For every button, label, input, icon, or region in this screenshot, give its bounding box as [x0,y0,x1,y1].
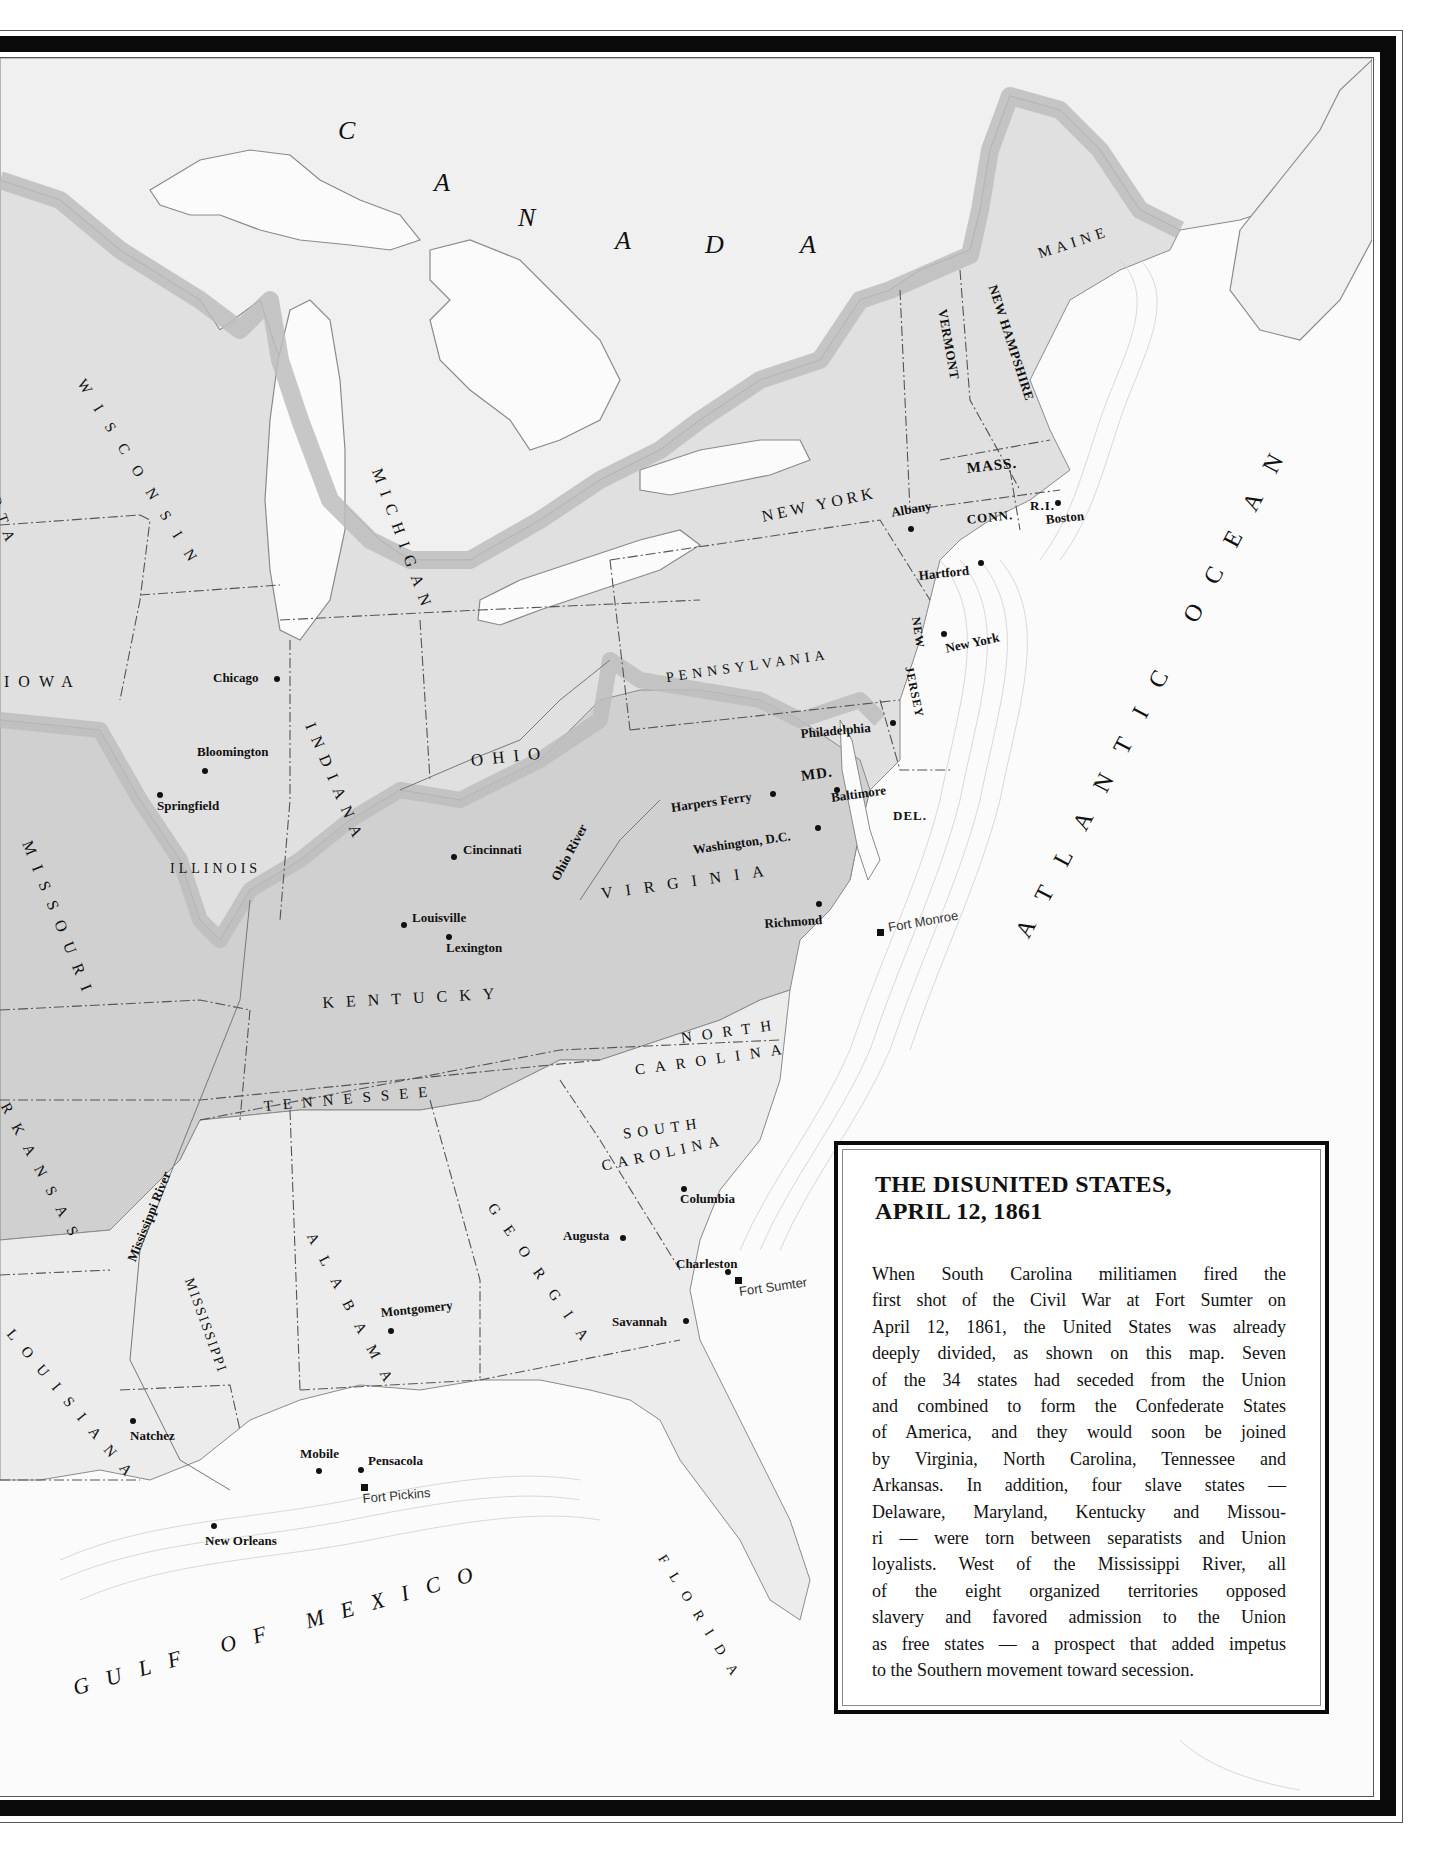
label-canada-a1: A [434,168,450,198]
city-dot-albany [908,526,914,532]
label-iowa: IOWA [4,673,82,691]
city-dot-new-orleans [211,1523,217,1529]
label-canada-c: C [338,116,355,146]
info-body-line: to the Southern movement toward secessio… [872,1657,1286,1683]
label-new-orleans: New Orleans [205,1533,277,1549]
info-body-line: of America, and they would soon be joine… [872,1419,1286,1445]
info-title-line-2: APRIL 12, 1861 [875,1198,1172,1225]
info-body-line: of the 34 states had seceded from the Un… [872,1367,1286,1393]
city-dot-richmond [816,901,822,907]
city-dot-mobile [316,1468,322,1474]
info-body-line: first shot of the Civil War at Fort Sumt… [872,1287,1286,1313]
label-savannah: Savannah [612,1314,667,1330]
label-del: DEL. [893,808,927,824]
label-natchez: Natchez [130,1428,175,1444]
info-body-line: ri — were torn between separatists and U… [872,1525,1286,1551]
label-canada-n: N [518,203,535,233]
label-bloomington: Bloomington [197,744,269,760]
city-dot-natchez [130,1418,136,1424]
info-body-line: loyalists. West of the Mississippi River… [872,1551,1286,1577]
label-charleston: Charleston [676,1256,737,1272]
info-body-line: of the eight organized territories oppos… [872,1578,1286,1604]
label-canada-a3: A [800,230,816,260]
info-body-line: by Virginia, North Carolina, Tennessee a… [872,1446,1286,1472]
label-cincinnati: Cincinnati [463,842,522,858]
city-dot-louisville [401,922,407,928]
city-dot-washington [815,825,821,831]
info-title-line-1: THE DISUNITED STATES, [875,1171,1172,1198]
city-dot-new-york [941,631,947,637]
city-dot-cincinnati [451,854,457,860]
label-pensacola: Pensacola [368,1453,423,1469]
info-body-line: When South Carolina militiamen fired the [872,1261,1286,1287]
city-dot-bloomington [202,768,208,774]
info-body-line: Arkansas. In addition, four slave states… [872,1472,1286,1498]
label-chicago: Chicago [213,670,259,686]
label-canada-a2: A [615,226,631,256]
label-augusta: Augusta [563,1228,609,1244]
label-illinois: ILLINOIS [170,861,261,877]
label-columbia: Columbia [680,1191,735,1207]
fort-marker-monroe [877,929,884,936]
city-dot-philadelphia [890,720,896,726]
city-dot-pensacola [358,1467,364,1473]
info-body-line: and combined to form the Confederate Sta… [872,1393,1286,1419]
city-dot-chicago [274,676,280,682]
label-lexington: Lexington [446,940,502,956]
city-dot-harpers-ferry [770,791,776,797]
label-springfield: Springfield [157,798,219,814]
info-body-line: slavery and favored admission to the Uni… [872,1604,1286,1630]
info-body: When South Carolina militiamen fired the… [872,1261,1286,1684]
info-body-line: deeply divided, as shown on this map. Se… [872,1340,1286,1366]
label-mobile: Mobile [300,1446,339,1462]
label-louisville: Louisville [412,910,466,926]
info-title: THE DISUNITED STATES, APRIL 12, 1861 [875,1171,1172,1225]
info-body-line: April 12, 1861, the United States was al… [872,1314,1286,1340]
info-box: THE DISUNITED STATES, APRIL 12, 1861 Whe… [834,1141,1329,1714]
city-dot-savannah [683,1318,689,1324]
label-canada-d: D [705,230,724,260]
city-dot-boston [1055,500,1061,506]
city-dot-hartford [978,560,984,566]
city-dot-montgomery [388,1328,394,1334]
city-dot-augusta [620,1235,626,1241]
info-body-line: as free states — a prospect that added i… [872,1631,1286,1657]
info-body-line: Delaware, Maryland, Kentucky and Missou- [872,1499,1286,1525]
